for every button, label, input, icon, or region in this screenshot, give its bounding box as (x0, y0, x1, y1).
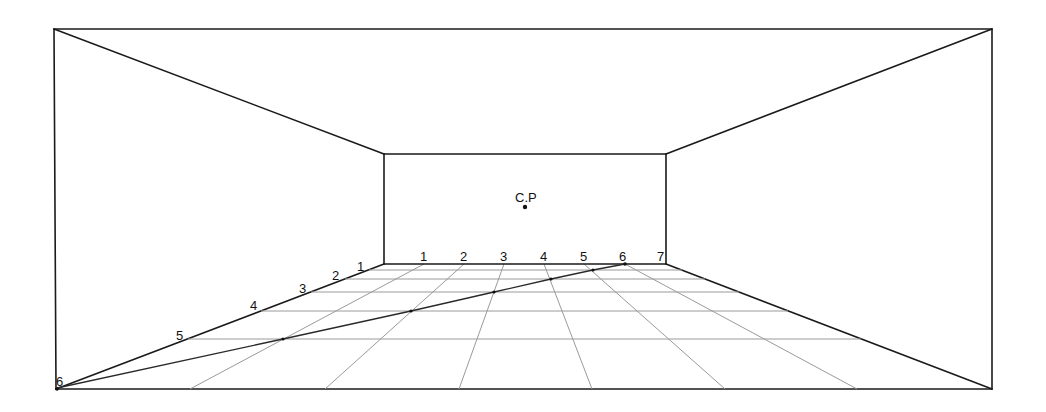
left-edge-label: 4 (250, 298, 257, 313)
floor-horizontal-grid (188, 270, 861, 339)
left-edge-label: 6 (56, 374, 63, 389)
perspective-diagram: C.P 1 2 3 4 5 6 7 1 2 3 4 5 6 (0, 0, 1046, 412)
left-edge-label: 2 (332, 268, 339, 283)
diagonal-point (281, 337, 284, 340)
back-edge-label: 6 (619, 249, 626, 264)
center-point-dot (523, 205, 527, 209)
back-edge-label: 7 (657, 249, 664, 264)
back-edge-label: 2 (460, 249, 467, 264)
left-edge-label: 3 (299, 281, 306, 296)
ceiling-left-edge (54, 29, 384, 154)
ceiling-right-edge (666, 29, 992, 154)
center-point-label: C.P (515, 190, 537, 205)
back-edge-label: 1 (420, 249, 427, 264)
center-point: C.P (515, 190, 537, 209)
diagonal-point (591, 268, 594, 271)
measuring-diagonal (55, 262, 627, 391)
diagonal-point (409, 309, 412, 312)
diagonal-point (549, 277, 552, 280)
left-edge-label: 1 (357, 259, 364, 274)
back-edge-labels: 1 2 3 4 5 6 7 (420, 249, 664, 264)
floor-right-edge (666, 264, 992, 389)
back-edge-label: 5 (580, 249, 587, 264)
back-edge-label: 3 (500, 249, 507, 264)
left-edge-label: 5 (176, 328, 183, 343)
room-corner-edges (54, 29, 992, 389)
back-edge-label: 4 (540, 249, 547, 264)
diagonal-point (492, 290, 495, 293)
left-edge-labels: 1 2 3 4 5 6 (56, 259, 364, 389)
floor-converging-grid (190, 264, 857, 389)
